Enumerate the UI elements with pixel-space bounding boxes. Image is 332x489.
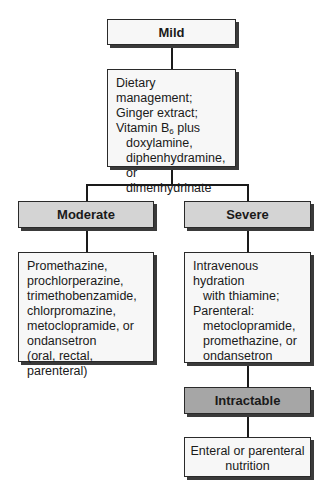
mild-treatment-line: doxylamine, bbox=[116, 136, 229, 151]
mild-treatment-line: diphenhydramine, or bbox=[116, 151, 229, 181]
severe-label: Severe bbox=[226, 207, 269, 222]
mild-label: Mild bbox=[159, 25, 185, 40]
intractable-node: Intractable bbox=[184, 387, 311, 414]
connector-mild-to-treatment bbox=[171, 45, 173, 69]
moderate-treatment-node: Promethazine, prochlorperazine, trimetho… bbox=[18, 252, 154, 362]
severe-node: Severe bbox=[184, 201, 311, 228]
severe-treatment-line: with thiamine; bbox=[193, 289, 304, 304]
mild-treatment-line: Vitamin B6 plus bbox=[116, 121, 229, 136]
moderate-treatment-line: (oral, rectal, parenteral) bbox=[27, 349, 147, 379]
intractable-treatment-line: nutrition bbox=[189, 459, 306, 474]
moderate-treatment-line: ondansetron bbox=[27, 334, 147, 349]
mild-node: Mild bbox=[107, 19, 236, 45]
connector-to-moderate bbox=[86, 184, 88, 201]
mild-treatment-line: Dietary management; bbox=[116, 76, 229, 106]
connector-severe-to-treatment bbox=[247, 228, 249, 252]
connector-intractable-to-nutrition bbox=[247, 414, 249, 437]
intractable-treatment-line: Enteral or parenteral bbox=[189, 444, 306, 459]
moderate-treatment-line: prochlorperazine, bbox=[27, 274, 147, 289]
intractable-treatment-node: Enteral or parenteral nutrition bbox=[184, 437, 311, 477]
moderate-treatment-line: metoclopramide, or bbox=[27, 319, 147, 334]
moderate-treatment-line: chlorpromazine, bbox=[27, 304, 147, 319]
connector-severe-treatment-to-intractable bbox=[247, 363, 249, 387]
moderate-treatment-line: Promethazine, bbox=[27, 259, 147, 274]
mild-treatment-line: dimenhydrinate bbox=[116, 181, 229, 196]
intractable-label: Intractable bbox=[215, 393, 281, 408]
severe-treatment-node: Intravenous hydration with thiamine; Par… bbox=[184, 252, 311, 363]
connector-to-severe bbox=[247, 184, 249, 201]
vitamin-text: Vitamin B bbox=[116, 121, 169, 135]
mild-treatment-node: Dietary management; Ginger extract; Vita… bbox=[107, 69, 236, 167]
moderate-label: Moderate bbox=[57, 207, 115, 222]
connector-moderate-to-treatment bbox=[86, 228, 88, 252]
moderate-node: Moderate bbox=[18, 201, 154, 228]
severe-treatment-line: ondansetron bbox=[193, 349, 304, 364]
severe-treatment-line: Intravenous hydration bbox=[193, 259, 304, 289]
moderate-treatment-line: trimethobenzamide, bbox=[27, 289, 147, 304]
severe-treatment-line: metoclopramide, bbox=[193, 319, 304, 334]
severe-treatment-line: Parenteral: bbox=[193, 304, 304, 319]
severe-treatment-line: promethazine, or bbox=[193, 334, 304, 349]
vitamin-suffix: plus bbox=[174, 121, 200, 135]
mild-treatment-line: Ginger extract; bbox=[116, 106, 229, 121]
